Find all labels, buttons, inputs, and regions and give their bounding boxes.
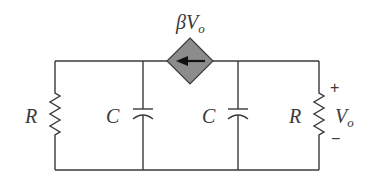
capacitor-2 xyxy=(228,61,248,170)
right-resistor xyxy=(314,61,324,170)
minus-sign: − xyxy=(331,131,340,147)
capacitor-1 xyxy=(133,61,153,170)
left-resistor xyxy=(50,61,60,170)
capacitor-1-label: C xyxy=(106,106,119,126)
resistor-2-label: R xyxy=(289,106,301,126)
output-voltage-label: Vo xyxy=(335,106,354,129)
capacitor-2-label: C xyxy=(202,106,215,126)
plus-sign: + xyxy=(330,80,339,96)
source-label: βVo xyxy=(176,12,205,35)
resistor-1-label: R xyxy=(25,106,37,126)
